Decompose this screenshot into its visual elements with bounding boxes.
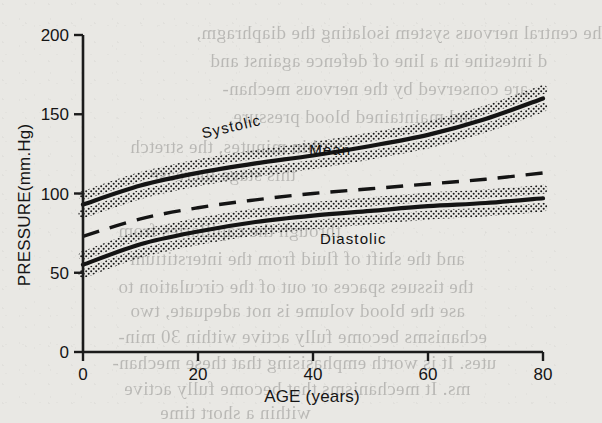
y-tick-label-200: 200	[41, 26, 69, 45]
x-axis-ticks	[83, 352, 543, 361]
x-axis-title: AGE (years)	[264, 387, 360, 406]
y-tick-label-150: 150	[41, 105, 69, 124]
data-curves	[83, 98, 543, 264]
x-tick-label-0: 0	[78, 365, 87, 384]
x-tick-label-80: 80	[534, 365, 553, 384]
y-tick-label-50: 50	[50, 264, 69, 283]
diastolic-label: Diastolic	[320, 230, 387, 247]
y-axis-ticks	[74, 35, 83, 352]
x-tick-label-60: 60	[419, 365, 438, 384]
x-axis-tick-labels: 020406080	[78, 365, 552, 384]
y-tick-label-0: 0	[60, 343, 69, 362]
y-tick-label-100: 100	[41, 185, 69, 204]
mean-label: Mean	[309, 141, 351, 158]
x-tick-label-20: 20	[189, 365, 208, 384]
y-axis-title: PRESSURE(mm.Hg)	[15, 124, 34, 287]
systolic-label: Systolic	[200, 111, 263, 141]
x-tick-label-40: 40	[304, 365, 323, 384]
y-axis-tick-labels: 050100150200	[41, 26, 69, 362]
